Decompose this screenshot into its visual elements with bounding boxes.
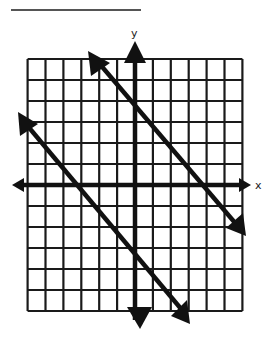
x-axis-right-arrow-icon [239,178,251,192]
x-axis-label: x [255,179,262,192]
x-axis-left-arrow-icon [12,178,24,192]
y-axis: y [124,27,152,329]
y-axis-up-arrow-icon [124,41,146,63]
y-axis-label: y [131,27,138,40]
coordinate-plane: x y [0,0,276,344]
y-axis-down-arrow-icon [127,307,152,329]
